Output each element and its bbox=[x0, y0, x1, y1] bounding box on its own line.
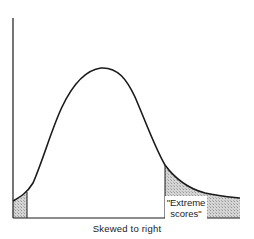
x-axis-caption: Skewed to right bbox=[0, 223, 254, 234]
extreme-scores-annotation: "Extreme scores" bbox=[165, 196, 207, 220]
skewed-distribution-chart bbox=[0, 0, 254, 239]
distribution-curve bbox=[13, 68, 240, 201]
annotation-line-1: "Extreme bbox=[165, 197, 207, 208]
annotation-line-2: scores" bbox=[165, 208, 207, 219]
